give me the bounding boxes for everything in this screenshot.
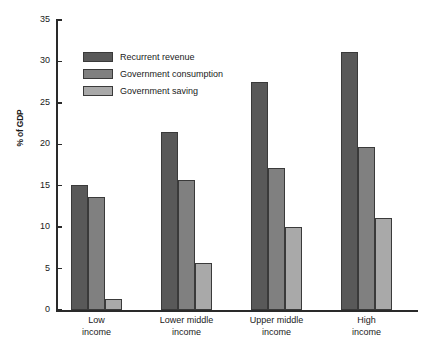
y-tick-label-20: 20 xyxy=(20,138,50,148)
bar xyxy=(375,218,392,310)
x-tick-label-line: Lower middle xyxy=(142,315,232,327)
bar-group xyxy=(251,20,302,310)
bar xyxy=(358,147,375,310)
bar xyxy=(105,299,122,310)
bar-group xyxy=(341,20,392,310)
y-tick-label-0: 0 xyxy=(20,304,50,314)
x-tick-label: Upper middleincome xyxy=(232,315,322,338)
bar xyxy=(341,52,358,310)
x-tick-label-line: income xyxy=(232,327,322,339)
legend-item: Government consumption xyxy=(83,67,223,81)
y-tick-label-30: 30 xyxy=(20,55,50,65)
bar xyxy=(88,197,105,311)
x-tick-label-line: income xyxy=(142,327,232,339)
legend-swatch xyxy=(83,69,113,79)
legend-item: Recurrent revenue xyxy=(83,50,223,64)
x-tick-label-line: income xyxy=(322,327,412,339)
legend-swatch xyxy=(83,86,113,96)
bar xyxy=(178,180,195,310)
chart-legend: Recurrent revenueGovernment consumptionG… xyxy=(83,50,223,101)
bar xyxy=(161,132,178,310)
y-tick-label-5: 5 xyxy=(20,263,50,273)
bar xyxy=(268,168,285,311)
x-axis-line xyxy=(56,310,418,312)
y-tick-label-10: 10 xyxy=(20,221,50,231)
x-tick-label-line: High xyxy=(322,315,412,327)
x-tick-label: Lower middleincome xyxy=(142,315,232,338)
legend-swatch xyxy=(83,52,113,62)
legend-label: Government saving xyxy=(120,86,198,96)
x-tick-label: Highincome xyxy=(322,315,412,338)
x-tick-label-line: Low xyxy=(52,315,142,327)
y-tick-label-35: 35 xyxy=(20,14,50,24)
legend-label: Government consumption xyxy=(120,69,223,79)
bar xyxy=(251,82,268,310)
legend-item: Government saving xyxy=(83,84,223,98)
y-tick-label-25: 25 xyxy=(20,97,50,107)
y-tick-label-15: 15 xyxy=(20,180,50,190)
legend-label: Recurrent revenue xyxy=(120,52,195,62)
bar xyxy=(285,227,302,310)
x-tick-label: Lowincome xyxy=(52,315,142,338)
bar xyxy=(195,263,212,310)
bar xyxy=(71,185,88,310)
bar-chart: % of GDP 05101520253035 LowincomeLower m… xyxy=(0,0,426,348)
x-tick-label-line: Upper middle xyxy=(232,315,322,327)
x-tick-label-line: income xyxy=(52,327,142,339)
